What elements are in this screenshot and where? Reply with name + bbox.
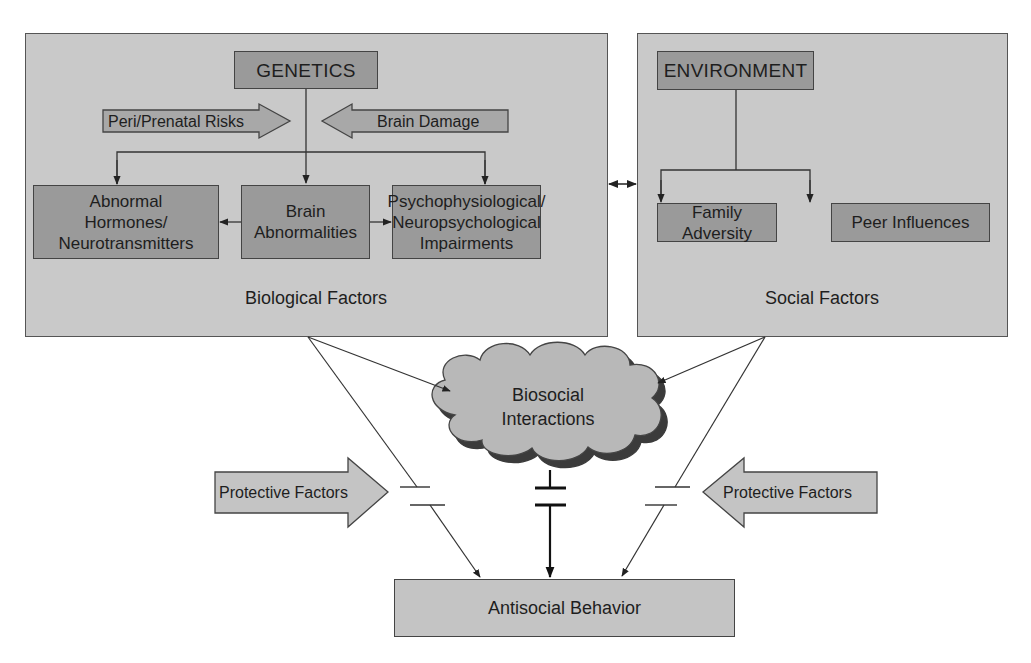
abnormal-hormones-box: Abnormal Hormones/ Neurotransmitters: [33, 185, 219, 259]
peer-influences-box: Peer Influences: [831, 203, 990, 242]
environment-box: ENVIRONMENT: [657, 51, 814, 90]
antisocial-behavior-box: Antisocial Behavior: [394, 579, 735, 637]
biosocial-interactions-label: Biosocial Interactions: [478, 383, 618, 431]
peri-prenatal-risks-label: Peri/Prenatal Risks: [108, 111, 244, 132]
brain-abnormalities-box: Brain Abnormalities: [241, 185, 370, 259]
biological-factors-label: Biological Factors: [196, 288, 436, 309]
genetics-box: GENETICS: [234, 51, 378, 89]
protective-factors-left-label: Protective Factors: [219, 482, 348, 503]
family-adversity-box: Family Adversity: [657, 203, 777, 242]
brain-damage-label: Brain Damage: [377, 111, 479, 132]
psychophysiological-box: Psychophysiological/ Neuropsychological …: [392, 185, 541, 259]
social-factors-label: Social Factors: [702, 288, 942, 309]
protective-factors-right-label: Protective Factors: [723, 482, 852, 503]
